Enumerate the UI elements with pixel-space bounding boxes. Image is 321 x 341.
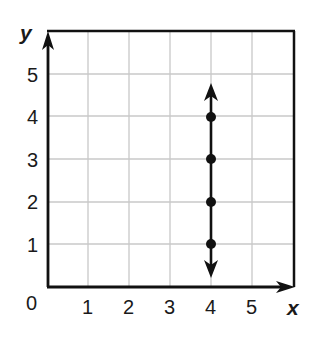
data-point: [206, 197, 216, 207]
x-tick-label: 5: [246, 296, 257, 318]
x-tick-label: 2: [123, 296, 134, 318]
x-tick-label: 3: [164, 296, 175, 318]
y-tick-label: 3: [27, 149, 38, 171]
series-line-x-equals-4: [204, 83, 218, 278]
y-axis-label: y: [19, 21, 33, 44]
x-tick-label: 4: [205, 296, 216, 318]
grid: [47, 31, 294, 287]
data-point: [206, 154, 216, 164]
data-point: [206, 239, 216, 249]
x-tick-labels: 0 1 2 3 4 5: [26, 292, 257, 318]
data-point: [206, 112, 216, 122]
y-tick-labels: 1 2 3 4 5: [27, 64, 38, 256]
x-axis-label: x: [286, 296, 300, 319]
x-tick-label: 1: [82, 296, 93, 318]
y-tick-label: 2: [27, 191, 38, 213]
coordinate-graph: 1 2 3 4 5 0 1 2 3 4 5 y x: [0, 0, 321, 341]
y-tick-label: 1: [27, 234, 38, 256]
origin-label: 0: [26, 292, 37, 314]
y-tick-label: 4: [27, 106, 38, 128]
y-tick-label: 5: [27, 64, 38, 86]
x-axis: [47, 281, 295, 293]
